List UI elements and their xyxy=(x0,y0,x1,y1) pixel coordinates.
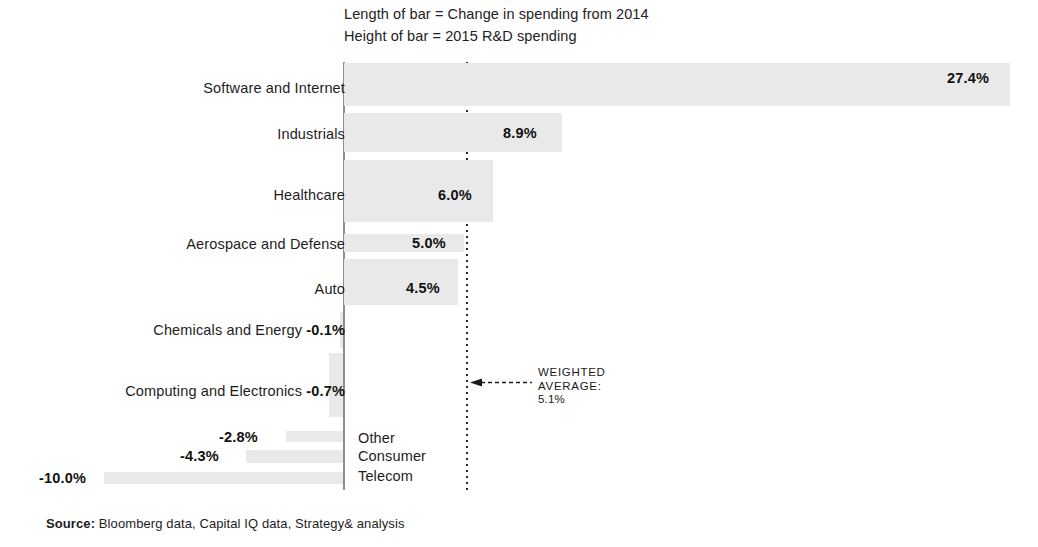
source-text: Bloomberg data, Capital IQ data, Strateg… xyxy=(95,516,404,531)
weighted-average-text: WEIGHTED AVERAGE: 5.1% xyxy=(538,366,606,407)
value-label-chemicals-and-energy: -0.1% xyxy=(306,322,345,338)
value-label-industrials: 8.9% xyxy=(503,125,537,141)
value-label-aerospace-and-defense: 5.0% xyxy=(412,235,446,251)
category-label-healthcare: Healthcare xyxy=(273,187,345,203)
weighted-average-line1: WEIGHTED xyxy=(538,366,606,380)
category-name-chemicals-and-energy: Chemicals and Energy xyxy=(153,322,302,338)
weighted-average-line2: AVERAGE: xyxy=(538,380,606,394)
category-label-consumer: Consumer xyxy=(358,448,426,464)
bar-software-and-internet xyxy=(344,63,1010,106)
bar-other xyxy=(286,431,343,442)
arrow-left-icon xyxy=(470,378,532,387)
source-label: Source: xyxy=(46,516,95,531)
bar-aerospace-and-defense xyxy=(344,234,464,252)
category-label-computing-and-electronics: Computing and Electronics -0.7% xyxy=(125,383,345,399)
source-line: Source: Bloomberg data, Capital IQ data,… xyxy=(46,516,405,531)
category-label-software-and-internet: Software and Internet xyxy=(203,80,345,96)
plot-area: Software and Internet 27.4% Industrials … xyxy=(0,0,1038,500)
rd-spending-bar-chart: Length of bar = Change in spending from … xyxy=(0,0,1038,547)
weighted-average-value: 5.1% xyxy=(538,393,606,407)
category-label-other: Other xyxy=(358,430,395,446)
category-label-telecom: Telecom xyxy=(358,468,413,484)
value-label-auto: 4.5% xyxy=(406,280,440,296)
value-label-software-and-internet: 27.4% xyxy=(947,70,989,86)
category-label-auto: Auto xyxy=(315,281,345,297)
bar-auto xyxy=(344,259,458,305)
value-label-consumer: -4.3% xyxy=(180,448,219,464)
category-label-chemicals-and-energy: Chemicals and Energy -0.1% xyxy=(153,322,345,338)
value-label-telecom: -10.0% xyxy=(39,470,86,486)
category-label-industrials: Industrials xyxy=(277,126,345,142)
category-name-computing-and-electronics: Computing and Electronics xyxy=(125,383,302,399)
bar-telecom xyxy=(104,472,343,484)
bar-consumer xyxy=(246,450,343,463)
value-label-other: -2.8% xyxy=(219,429,258,445)
category-label-aerospace-and-defense: Aerospace and Defense xyxy=(186,236,345,252)
value-label-computing-and-electronics: -0.7% xyxy=(306,383,345,399)
value-label-healthcare: 6.0% xyxy=(438,187,472,203)
